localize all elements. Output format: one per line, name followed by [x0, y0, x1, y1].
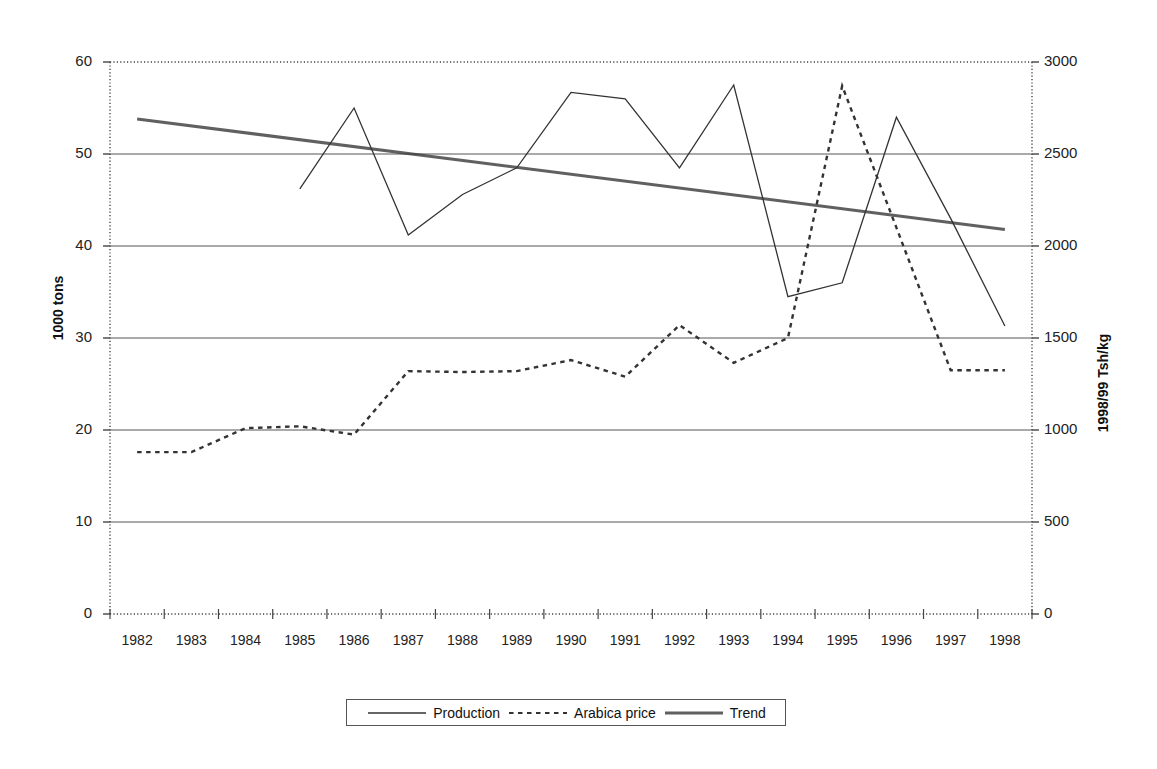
legend-item: Production	[366, 705, 500, 721]
x-axis-tick-label: 1995	[814, 632, 870, 648]
legend-swatch-dashed	[507, 706, 569, 720]
y-axis-right-tick-label: 1500	[1044, 328, 1094, 345]
x-axis-tick-label: 1984	[218, 632, 274, 648]
x-axis-tick-label: 1986	[326, 632, 382, 648]
y-axis-left-tick-label: 30	[52, 328, 92, 345]
y-axis-right-tick-label: 3000	[1044, 52, 1094, 69]
x-axis-tick-label: 1991	[597, 632, 653, 648]
x-axis-tick-label: 1982	[109, 632, 165, 648]
chart-figure: 1000 tons 1998/99 Tsh/kg 0102030405060 0…	[0, 0, 1157, 769]
x-axis-tick-label: 1992	[651, 632, 707, 648]
y-axis-left-tick-label: 50	[52, 144, 92, 161]
legend-label: Arabica price	[574, 705, 656, 721]
y-axis-right-tick-label: 500	[1044, 512, 1094, 529]
series-line-production	[300, 85, 1005, 326]
y-axis-left-tick-label: 0	[52, 604, 92, 621]
y-axis-left-title: 1000 tons	[50, 248, 66, 368]
x-axis-tick-label: 1994	[760, 632, 816, 648]
x-axis-tick-label: 1985	[272, 632, 328, 648]
y-axis-right-tick-label: 1000	[1044, 420, 1094, 437]
chart-legend: ProductionArabica priceTrend	[346, 699, 786, 726]
series-line-arabica-price	[137, 86, 1005, 452]
x-axis-tick-label: 1983	[163, 632, 219, 648]
plot-area	[0, 0, 1157, 769]
y-axis-left-tick-label: 60	[52, 52, 92, 69]
y-axis-right-tick-label: 2000	[1044, 236, 1094, 253]
tick-marks-group	[103, 62, 1039, 619]
legend-label: Production	[433, 705, 500, 721]
x-axis-tick-label: 1988	[435, 632, 491, 648]
legend-swatch-solid-thin	[366, 706, 428, 720]
gridlines-group	[110, 154, 1032, 522]
series-line-trend	[137, 119, 1005, 229]
x-axis-tick-label: 1989	[489, 632, 545, 648]
y-axis-left-tick-label: 40	[52, 236, 92, 253]
x-axis-tick-label: 1996	[868, 632, 924, 648]
x-axis-tick-label: 1987	[380, 632, 436, 648]
legend-label: Trend	[730, 705, 766, 721]
y-axis-right-tick-label: 0	[1044, 604, 1094, 621]
x-axis-tick-label: 1990	[543, 632, 599, 648]
y-axis-right-title: 1998/99 Tsh/kg	[1095, 318, 1111, 448]
x-axis-tick-label: 1997	[923, 632, 979, 648]
y-axis-left-tick-label: 10	[52, 512, 92, 529]
x-axis-tick-label: 1998	[977, 632, 1033, 648]
legend-swatch-solid-thick	[663, 706, 725, 720]
legend-item: Arabica price	[507, 705, 656, 721]
x-axis-tick-label: 1993	[706, 632, 762, 648]
y-axis-right-tick-label: 2500	[1044, 144, 1094, 161]
legend-item: Trend	[663, 705, 766, 721]
data-series-group	[137, 85, 1005, 452]
y-axis-left-tick-label: 20	[52, 420, 92, 437]
